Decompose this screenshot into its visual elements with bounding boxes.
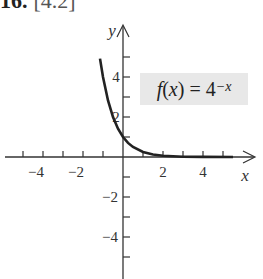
x-tick-label: −4 xyxy=(28,164,44,180)
fn-eq: = xyxy=(189,78,200,101)
x-tick-label: −2 xyxy=(68,164,84,180)
graph: −4 −2 2 4 4 2 −2 −4 x y xyxy=(0,0,263,279)
y-tick-label: −4 xyxy=(102,229,118,245)
fn-exponent: −x xyxy=(216,79,232,94)
x-tick-label: 4 xyxy=(199,164,207,180)
function-label: f(x) = 4−x xyxy=(140,73,248,105)
fn-var: x xyxy=(169,78,178,101)
x-tick-label: 2 xyxy=(159,164,167,180)
x-axis-label: x xyxy=(240,166,249,185)
y-tick-label: 4 xyxy=(112,69,120,85)
fn-base: 4 xyxy=(206,78,216,101)
fn-name: f xyxy=(157,78,163,101)
y-axis-label: y xyxy=(106,21,116,40)
y-tick-label: −2 xyxy=(102,189,118,205)
